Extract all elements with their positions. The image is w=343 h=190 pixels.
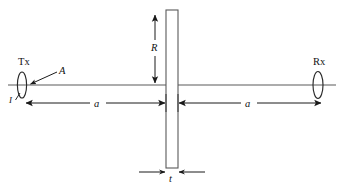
loop-area-label: A (59, 66, 65, 77)
wall-height-label: R (151, 43, 157, 54)
tx-label: Tx (18, 57, 30, 68)
right-distance-label: a (245, 99, 250, 110)
wall-slab (166, 10, 178, 168)
loop-current-label: I (9, 96, 12, 105)
rx-label: Rx (313, 57, 325, 68)
antenna-wall-diagram: Tx Rx A I R a a t (0, 0, 343, 190)
left-distance-label: a (94, 99, 99, 110)
diagram-canvas (0, 0, 343, 190)
loop-area-leader-line (31, 72, 58, 84)
wall-thickness-label: t (169, 174, 172, 185)
